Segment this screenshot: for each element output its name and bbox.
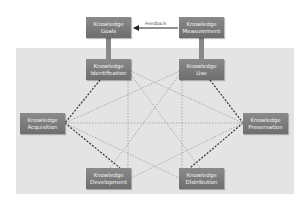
node-knowledge-distribution: Knowledge Distribution bbox=[179, 168, 224, 189]
node-label: Knowledge bbox=[179, 172, 224, 179]
node-knowledge-development: Knowledge Development bbox=[86, 168, 131, 189]
connection-lines bbox=[0, 0, 308, 205]
node-label: Knowledge bbox=[20, 117, 65, 124]
node-label: Knowledge bbox=[243, 117, 288, 124]
node-knowledge-goals: Knowledge Goals bbox=[86, 17, 131, 38]
node-label: Knowledge bbox=[86, 172, 131, 179]
node-label: Identification bbox=[86, 70, 131, 77]
node-knowledge-preservation: Knowledge Preservation bbox=[243, 113, 288, 134]
node-knowledge-acquisition: Knowledge Acquisition bbox=[20, 113, 65, 134]
node-knowledge-identification: Knowledge Identification bbox=[86, 59, 131, 80]
node-label: Preservation bbox=[243, 124, 288, 131]
node-label: Measurement bbox=[179, 28, 224, 35]
node-label: Knowledge bbox=[86, 63, 131, 70]
node-label: Knowledge bbox=[179, 63, 224, 70]
feedback-label: Feedback bbox=[145, 21, 166, 26]
node-label: Development bbox=[86, 179, 131, 186]
node-label: Use bbox=[179, 70, 224, 77]
node-knowledge-use: Knowledge Use bbox=[179, 59, 224, 80]
node-label: Knowledge bbox=[179, 21, 224, 28]
node-label: Acquisition bbox=[20, 124, 65, 131]
node-label: Goals bbox=[86, 28, 131, 35]
node-knowledge-measurement: Knowledge Measurement bbox=[179, 17, 224, 38]
node-label: Distribution bbox=[179, 179, 224, 186]
node-label: Knowledge bbox=[86, 21, 131, 28]
